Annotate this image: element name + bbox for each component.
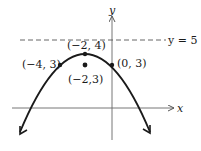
vertex-label: (−2, 4) <box>67 39 106 52</box>
focus-label: (−2,3) <box>68 73 103 86</box>
directrix-label: y = 5 <box>167 34 197 47</box>
focus-point <box>83 63 88 68</box>
left-latus-label: (−4, 3) <box>22 58 61 71</box>
parabola-diagram: y x y = 5 (−2, 4) (−2,3) (−4, 3) (0, 3) <box>0 0 201 151</box>
diagram-svg: y x y = 5 (−2, 4) (−2,3) (−4, 3) (0, 3) <box>0 0 201 151</box>
right-latus-label: (0, 3) <box>117 57 147 70</box>
y-axis-label: y <box>108 4 116 17</box>
right-latus-point <box>110 63 114 67</box>
vertex-point <box>83 52 87 56</box>
x-axis-label: x <box>177 102 184 115</box>
